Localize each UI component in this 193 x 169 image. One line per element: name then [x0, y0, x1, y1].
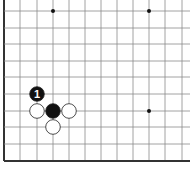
white-stone — [46, 120, 61, 135]
white-stone-icon — [30, 104, 45, 119]
black-stone: 1 — [30, 87, 45, 102]
go-board: 1 — [0, 0, 193, 169]
white-stone-icon — [62, 104, 77, 119]
move-number: 1 — [34, 88, 40, 100]
black-stone — [46, 104, 61, 119]
star-point-icon — [147, 109, 151, 113]
star-point-icon — [51, 9, 55, 13]
grid-lines — [4, 0, 190, 161]
white-stone — [62, 104, 77, 119]
white-stone — [30, 104, 45, 119]
star-point-icon — [147, 9, 151, 13]
white-stone-icon — [46, 120, 61, 135]
black-stone-icon — [46, 104, 61, 119]
